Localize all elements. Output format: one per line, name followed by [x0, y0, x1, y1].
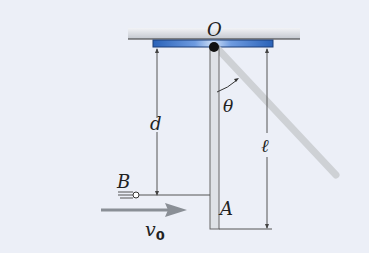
label-B: B: [116, 171, 130, 192]
rod: [210, 46, 219, 229]
label-A: A: [218, 198, 233, 219]
label-v0: v0: [145, 218, 165, 243]
swung-rod: [216, 47, 336, 175]
projectile-b: [118, 192, 210, 198]
velocity-arrow: [101, 203, 187, 217]
label-length: ℓ: [261, 135, 269, 156]
label-O: O: [207, 19, 222, 40]
label-d: d: [150, 113, 162, 134]
theta-arc: [217, 80, 237, 92]
label-theta: θ: [223, 96, 233, 116]
pivot-point: [209, 42, 219, 52]
pendulum-diagram: d ℓ θ O B v0 A: [0, 0, 369, 253]
